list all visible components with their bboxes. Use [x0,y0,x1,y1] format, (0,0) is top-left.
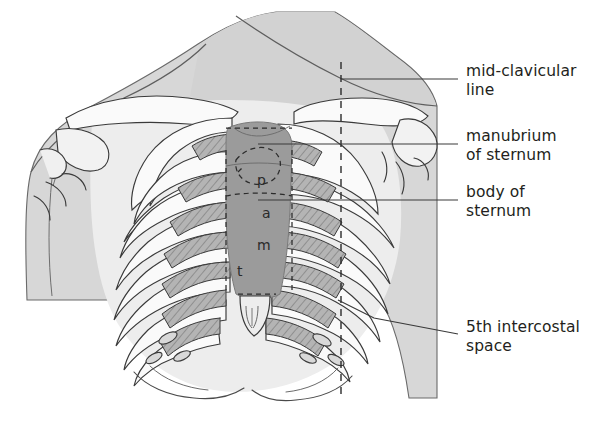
figure-canvas: mid-clavicular line manubrium of sternum… [0,0,607,426]
auscultation-letter-mitral: m [257,238,271,252]
label-body-of-sternum: body of sternum [466,183,531,221]
label-5th-intercostal-space: 5th intercostal space [466,318,580,356]
label-mid-clavicular-line: mid-clavicular line [466,62,577,100]
auscultation-letter-pulmonary: p [257,173,266,187]
sternum [226,122,292,299]
auscultation-letter-aortic: a [262,206,271,220]
auscultation-letter-tricuspid: t [237,264,243,278]
label-manubrium-of-sternum: manubrium of sternum [466,127,557,165]
